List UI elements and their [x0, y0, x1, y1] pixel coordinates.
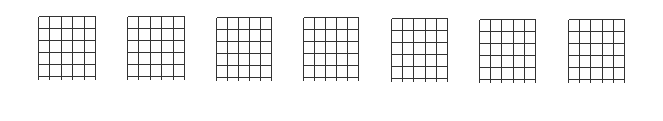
- chord-chart-6: [479, 19, 537, 85]
- chord-chart-7: [568, 19, 626, 85]
- chord-chart-3: [216, 17, 273, 83]
- chord-chart-4: [303, 17, 360, 83]
- chord-chart-5: [391, 18, 449, 84]
- chord-chart-2: [127, 16, 186, 82]
- chord-chart-1: [38, 16, 97, 82]
